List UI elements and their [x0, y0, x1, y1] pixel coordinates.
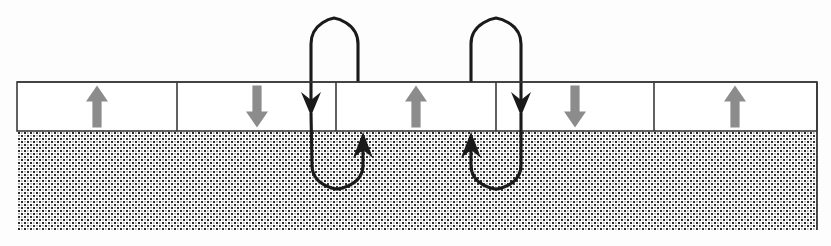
- diagram-canvas: Magnetic domain strip with two hairpin f…: [0, 0, 831, 246]
- substrate-group: [17, 131, 817, 230]
- figure-title: Magnetic domain strip with two hairpin f…: [4, 0, 347, 13]
- magnetic-domain-diagram: Magnetic domain strip with two hairpin f…: [0, 0, 831, 246]
- substrate-hatched-region: [17, 131, 817, 230]
